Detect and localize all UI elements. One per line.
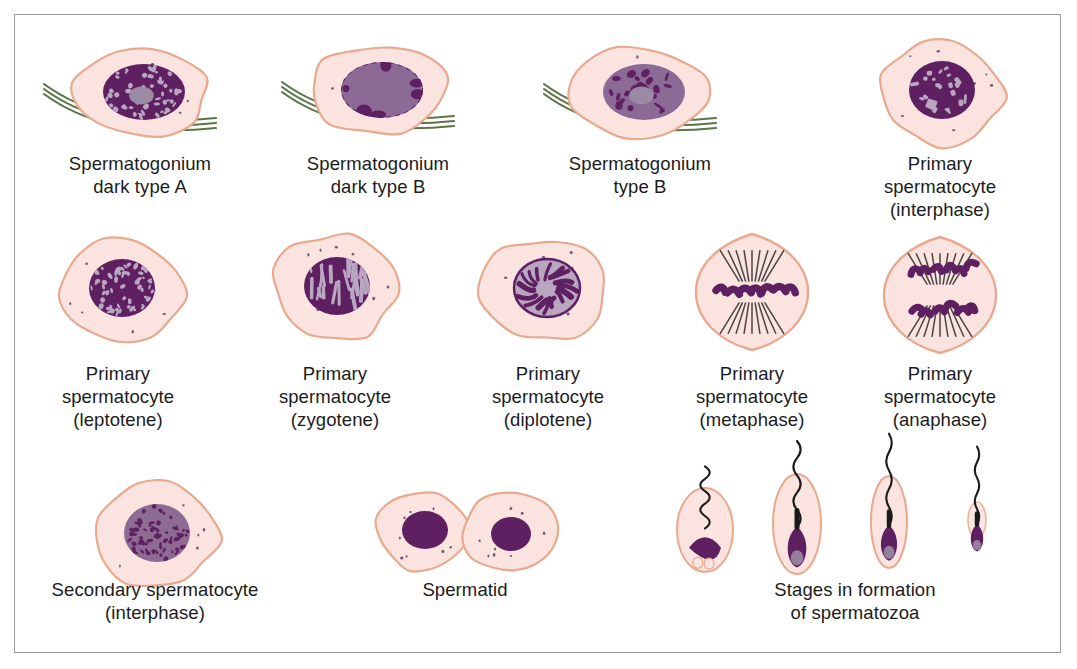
caption-spermatogonium-dark-type-b: Spermatogoniumdark type B (307, 152, 449, 198)
cell-spermatozoa-stages (677, 434, 986, 574)
caption-line: (interphase) (872, 198, 1009, 221)
caption-line: (leptotene) (62, 408, 174, 431)
caption-line: dark type B (307, 175, 449, 198)
cell-spermatogonium-dark-type-a (44, 49, 216, 137)
caption-line: Primary (696, 362, 808, 385)
cell-spermatogonium-type-b (544, 47, 716, 139)
caption-line: of spermatozoa (774, 601, 935, 624)
caption-primary-spermatocyte-diplotene: Primaryspermatocyte(diplotene) (492, 362, 604, 431)
caption-line: Spermatid (422, 578, 507, 601)
caption-line: Spermatogonium (569, 152, 711, 175)
caption-spermatogonium-dark-type-a: Spermatogoniumdark type A (69, 152, 211, 198)
caption-primary-spermatocyte-zygotene: Primaryspermatocyte(zygotene) (279, 362, 391, 431)
caption-line: (zygotene) (279, 408, 391, 431)
cell-primary-spermatocyte-interphase (880, 39, 1007, 148)
cell-spermatogonium-dark-type-b (282, 47, 454, 134)
caption-line: Spermatogonium (69, 152, 211, 175)
cell-primary-spermatocyte-anaphase (884, 237, 996, 353)
caption-spermatid-pair: Spermatid (422, 578, 507, 601)
caption-line: Stages in formation (774, 578, 935, 601)
cell-primary-spermatocyte-diplotene (478, 242, 604, 339)
caption-line: spermatocyte (884, 385, 996, 408)
caption-line: Primary (492, 362, 604, 385)
caption-line: (anaphase) (884, 408, 996, 431)
cell-primary-spermatocyte-zygotene (273, 233, 399, 339)
caption-line: Primary (62, 362, 174, 385)
caption-primary-spermatocyte-interphase: Primary spermatocyte(interphase) (872, 152, 1009, 221)
cell-primary-spermatocyte-leptotene (59, 237, 187, 342)
caption-line: spermatocyte (279, 385, 391, 408)
caption-line: (interphase) (52, 601, 259, 624)
caption-line: (metaphase) (696, 408, 808, 431)
caption-line: Primary spermatocyte (872, 152, 1009, 198)
caption-line: spermatocyte (62, 385, 174, 408)
caption-line: Primary (884, 362, 996, 385)
caption-secondary-spermatocyte-interphase: Secondary spermatocyte(interphase) (52, 578, 259, 624)
caption-line: spermatocyte (492, 385, 604, 408)
caption-primary-spermatocyte-anaphase: Primaryspermatocyte(anaphase) (884, 362, 996, 431)
caption-spermatogonium-type-b: Spermatogoniumtype B (569, 152, 711, 198)
caption-primary-spermatocyte-leptotene: Primaryspermatocyte(leptotene) (62, 362, 174, 431)
caption-line: Spermatogonium (307, 152, 449, 175)
caption-spermatozoa-stages: Stages in formationof spermatozoa (774, 578, 935, 624)
caption-line: spermatocyte (696, 385, 808, 408)
caption-line: type B (569, 175, 711, 198)
caption-primary-spermatocyte-metaphase: Primaryspermatocyte(metaphase) (696, 362, 808, 431)
caption-line: Secondary spermatocyte (52, 578, 259, 601)
cell-spermatid-pair (375, 492, 558, 571)
cell-primary-spermatocyte-metaphase (696, 234, 808, 350)
caption-line: Primary (279, 362, 391, 385)
cell-secondary-spermatocyte-interphase (96, 480, 222, 586)
spermatogenesis-illustration (0, 0, 1077, 669)
caption-line: (diplotene) (492, 408, 604, 431)
caption-line: dark type A (69, 175, 211, 198)
